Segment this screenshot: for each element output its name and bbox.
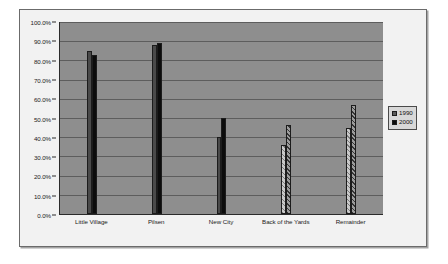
y-tick-mark <box>52 60 56 61</box>
bar-2000 <box>221 118 226 214</box>
legend-swatch-icon <box>392 120 397 125</box>
y-tick-label: 50.0% <box>34 115 51 122</box>
y-tick-mark <box>52 157 56 158</box>
bar-group <box>254 22 319 214</box>
legend-swatch-icon <box>392 111 397 116</box>
y-tick-mark <box>52 99 56 100</box>
y-tick-mark <box>52 195 56 196</box>
legend-item: 1990 <box>392 109 413 118</box>
y-tick-label: 10.0% <box>34 192 51 199</box>
bar-2000 <box>351 105 356 214</box>
bar-group <box>318 22 383 214</box>
y-tick-label: 20.0% <box>34 173 51 180</box>
legend-label: 1990 <box>399 110 413 116</box>
legend-label: 2000 <box>399 119 413 125</box>
plot-area <box>59 22 383 215</box>
bar-group <box>60 22 125 214</box>
y-tick-label: 70.0% <box>34 76 51 83</box>
y-tick-mark <box>52 118 56 119</box>
y-tick-label: 90.0% <box>34 38 51 45</box>
bar-2000 <box>157 43 162 214</box>
x-axis: Little VillagePilsenNew CityBack of the … <box>59 218 383 232</box>
y-tick-label: 80.0% <box>34 57 51 64</box>
y-tick-mark <box>52 22 56 23</box>
bar-group <box>189 22 254 214</box>
bar-2000 <box>92 55 97 214</box>
y-tick-mark <box>52 137 56 138</box>
y-tick-mark <box>52 79 56 80</box>
y-tick-label: 60.0% <box>34 96 51 103</box>
bar-group <box>125 22 190 214</box>
y-tick-label: 0.0% <box>37 212 51 219</box>
y-tick-label: 40.0% <box>34 134 51 141</box>
x-tick-label: New City <box>209 218 233 225</box>
x-tick-label: Remainder <box>336 218 366 225</box>
y-tick-label: 100.0% <box>31 19 51 26</box>
legend-item: 2000 <box>392 118 413 127</box>
y-tick-label: 30.0% <box>34 154 51 161</box>
x-tick-label: Pilsen <box>148 218 165 225</box>
y-axis: 0.0%10.0%20.0%30.0%40.0%50.0%60.0%70.0%8… <box>20 22 56 215</box>
x-tick-label: Little Village <box>75 218 108 225</box>
chart-legend: 19902000 <box>388 106 417 130</box>
y-tick-mark <box>52 41 56 42</box>
y-tick-mark <box>52 215 56 216</box>
y-tick-mark <box>52 176 56 177</box>
bar-2000 <box>286 125 291 214</box>
chart-frame: 0.0%10.0%20.0%30.0%40.0%50.0%60.0%70.0%8… <box>19 9 427 247</box>
x-tick-label: Back of the Yards <box>262 218 309 225</box>
